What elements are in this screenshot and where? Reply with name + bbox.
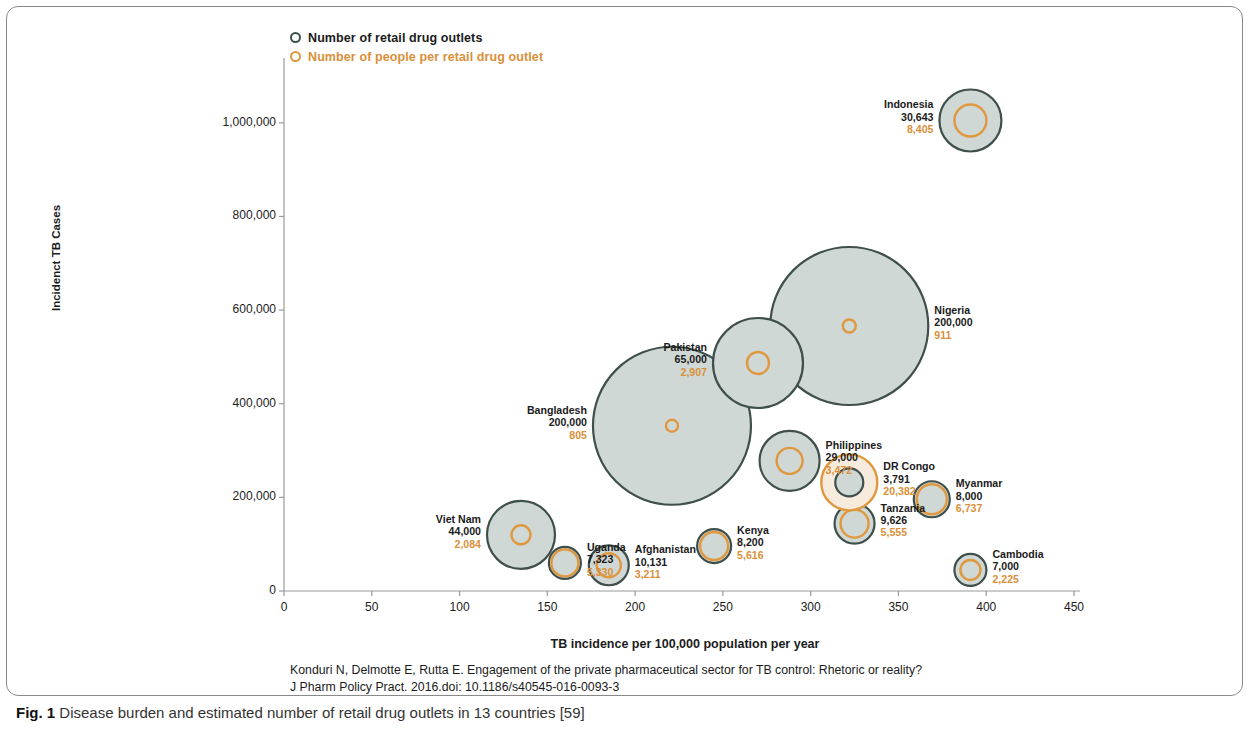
bubble-label-indonesia: Indonesia30,6438,405 [884, 98, 933, 135]
bubble-people-per-outlet-value: 20,382 [883, 485, 935, 497]
legend-item-outlets: Number of retail drug outlets [290, 28, 543, 47]
citation-line-1: Konduri N, Delmotte E, Rutta E. Engageme… [290, 662, 1090, 679]
bubble-people-per-outlet-value: 5,555 [881, 526, 926, 538]
x-tick-6: 300 [781, 600, 841, 614]
x-tick-8: 400 [956, 600, 1016, 614]
x-tick-4: 200 [605, 600, 665, 614]
bubble-outlets-value: 3,791 [883, 473, 935, 485]
y-tick-1: 200,000 [180, 489, 276, 503]
legend-label-people-per-outlet: Number of people per retail drug outlet [308, 50, 543, 64]
figure-caption-prefix: Fig. 1 [16, 704, 55, 721]
bubble-outlets-value: 10,131 [635, 556, 696, 568]
y-tick-0: 0 [180, 583, 276, 597]
bubble-label-myanmar: Myanmar8,0006,737 [956, 477, 1003, 514]
bubble-label-viet-nam: Viet Nam44,0002,084 [436, 513, 481, 550]
bubble-country-name: Uganda [587, 541, 626, 553]
figure-caption: Fig. 1 Disease burden and estimated numb… [16, 704, 1236, 721]
y-tick-4: 800,000 [180, 208, 276, 222]
bubble-label-kenya: Kenya8,2005,616 [737, 524, 769, 561]
bubble-country-name: Viet Nam [436, 513, 481, 525]
bubble-outlets-value: 29,000 [826, 451, 883, 463]
bubble-label-pakistan: Pakistan65,0002,907 [663, 341, 707, 378]
bubble-people-per-outlet-value: 911 [934, 329, 972, 341]
bubble-country-name: Pakistan [663, 341, 707, 353]
bubble-country-name: Tanzania [881, 502, 926, 514]
bubble-outlets-value: 44,000 [436, 525, 481, 537]
bubble-people-per-outlet-value: 3,211 [635, 568, 696, 580]
bubble-label-dr-congo: DR Congo3,79120,382 [883, 460, 935, 497]
bubble-people-per-outlet-value: 5,616 [737, 549, 769, 561]
legend-label-outlets: Number of retail drug outlets [308, 31, 482, 45]
bubble-people-per-outlet-value: 2,907 [663, 366, 707, 378]
y-tick-2: 400,000 [180, 396, 276, 410]
bubble-country-name: Afghanistan [635, 543, 696, 555]
bubble-label-cambodia: Cambodia7,0002,225 [992, 548, 1043, 585]
bubble-outlets-value: 9,626 [881, 514, 926, 526]
bubble-outlets-value: 65,000 [663, 353, 707, 365]
y-axis-title: Incidenct TB Cases [50, 173, 62, 343]
bubble-pakistan [713, 318, 803, 408]
x-tick-3: 150 [517, 600, 577, 614]
x-tick-5: 250 [693, 600, 753, 614]
bubble-country-name: Bangladesh [527, 404, 587, 416]
bubble-outlets-value: 8,000 [956, 490, 1003, 502]
x-axis-title: TB incidence per 100,000 population per … [290, 637, 1080, 651]
citation-line-2: J Pharm Policy Pract. 2016.doi: 10.1186/… [290, 679, 1090, 696]
bubble-people-per-outlet-value: 2,225 [992, 573, 1043, 585]
bubble-outlets-value: 7,323 [587, 553, 626, 565]
x-tick-9: 450 [1044, 600, 1104, 614]
bubble-outlets-value: 200,000 [527, 416, 587, 428]
figure-frame: Number of retail drug outlets Number of … [6, 6, 1243, 696]
bubble-label-bangladesh: Bangladesh200,000805 [527, 404, 587, 441]
legend-circle-outlets-icon [290, 32, 301, 43]
chart-legend: Number of retail drug outlets Number of … [290, 28, 543, 66]
x-tick-2: 100 [430, 600, 490, 614]
bubble-people-per-outlet-value: 8,405 [884, 123, 933, 135]
bubble-outlets-value: 30,643 [884, 111, 933, 123]
bubble-kenya [697, 529, 731, 563]
bubble-country-name: Kenya [737, 524, 769, 536]
bubble-people-per-outlet-value: 6,737 [956, 502, 1003, 514]
bubble-people-per-outlet-value: 805 [527, 429, 587, 441]
bubble-uganda [549, 547, 581, 579]
bubble-country-name: Indonesia [884, 98, 933, 110]
legend-item-people-per-outlet: Number of people per retail drug outlet [290, 47, 543, 66]
bubble-country-name: DR Congo [883, 460, 935, 472]
bubble-outlets-value: 8,200 [737, 536, 769, 548]
figure-caption-text: Disease burden and estimated number of r… [59, 704, 584, 721]
bubble-cambodia [954, 554, 986, 586]
bubble-country-name: Philippines [826, 439, 883, 451]
bubble-label-philippines: Philippines29,0003,472 [826, 439, 883, 476]
bubble-people-per-outlet-value: 2,084 [436, 538, 481, 550]
bubble-people-per-outlet-value: 5,330 [587, 566, 626, 578]
bubble-label-afghanistan: Afghanistan10,1313,211 [635, 543, 696, 580]
x-tick-0: 0 [254, 600, 314, 614]
y-tick-3: 600,000 [180, 302, 276, 316]
bubble-country-name: Nigeria [934, 304, 972, 316]
x-tick-1: 50 [342, 600, 402, 614]
legend-circle-people-per-outlet-icon [290, 51, 301, 62]
bubble-country-name: Myanmar [956, 477, 1003, 489]
bubble-outlets-value: 200,000 [934, 316, 972, 328]
plot-stage: Number of retail drug outlets Number of … [7, 7, 1244, 697]
bubble-label-nigeria: Nigeria200,000911 [934, 304, 972, 341]
bubble-outlets-value: 7,000 [992, 560, 1043, 572]
source-citation: Konduri N, Delmotte E, Rutta E. Engageme… [290, 662, 1090, 696]
bubble-viet-nam [487, 501, 555, 569]
y-tick-5: 1,000,000 [180, 115, 276, 129]
bubble-philippines [760, 431, 820, 491]
bubble-label-uganda: Uganda7,3235,330 [587, 541, 626, 578]
bubble-label-tanzania: Tanzania9,6265,555 [881, 502, 926, 539]
x-tick-7: 350 [868, 600, 928, 614]
bubble-indonesia [939, 89, 1001, 151]
bubble-country-name: Cambodia [992, 548, 1043, 560]
bubble-people-per-outlet-value: 3,472 [826, 464, 883, 476]
